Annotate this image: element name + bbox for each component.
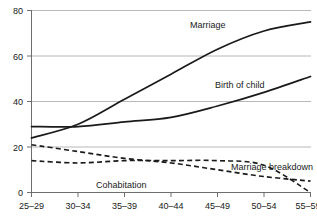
x-axis-label-50-54: 50–54 [251,201,276,211]
y-axis-labels: 80 60 40 20 0 [13,6,23,198]
line-chart: 80 60 40 20 0 25–29 30–34 35–39 40–44 45… [0,0,317,217]
x-tickmarks [32,193,311,198]
series-label-marriage-breakdown: Marriage breakdown [231,162,313,172]
x-axis-label-30-34: 30–34 [65,201,90,211]
series-label-birth-of-child: Birth of child [215,80,265,90]
x-axis-label-40-44: 40–44 [158,201,183,211]
y-axis-label-20: 20 [13,143,23,153]
series-line-marriage [32,22,311,138]
series-label-cohabitation: Cohabitation [96,180,147,190]
x-axis-label-45-49: 45–49 [205,201,230,211]
y-tickmarks [27,11,31,193]
y-axis-label-40: 40 [13,97,23,107]
x-axis-label-35-39: 35–39 [112,201,137,211]
y-axis-label-0: 0 [18,188,23,198]
y-axis-label-60: 60 [13,52,23,62]
series-label-marriage: Marriage [190,20,226,30]
x-axis-labels: 25–29 30–34 35–39 40–44 45–49 50–54 55–5… [19,201,317,211]
x-axis-label-55-59: 55–59 [295,201,317,211]
y-axis-label-80: 80 [13,6,23,16]
x-axis-label-25-29: 25–29 [19,201,44,211]
series-annotations: Marriage Birth of child Marriage breakdo… [96,20,313,190]
chart-container: 80 60 40 20 0 25–29 30–34 35–39 40–44 45… [0,0,317,217]
